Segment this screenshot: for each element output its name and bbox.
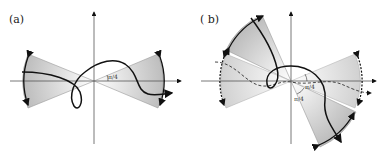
panel-label-a: (a) xyxy=(9,13,24,26)
diagram-a: π/4 xyxy=(0,0,191,153)
panel-label-b: ( b) xyxy=(200,13,219,26)
diagram-b: π/4 π/4 xyxy=(191,0,382,153)
angle-label: π/4 xyxy=(108,73,118,80)
panel-b: ( b) π/4 π/4 xyxy=(191,0,382,153)
angle-label-2: π/4 xyxy=(294,95,304,102)
angle-label-1: π/4 xyxy=(305,83,315,90)
panel-a: (a) π/4 xyxy=(0,0,191,153)
